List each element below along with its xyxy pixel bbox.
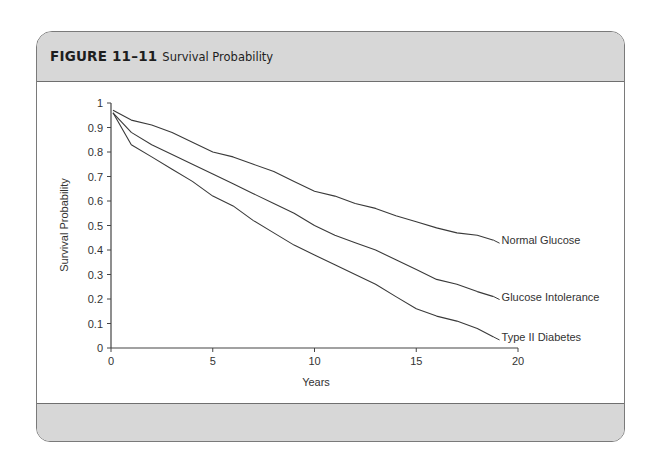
x-tick-label: 20: [512, 355, 524, 367]
y-tick-label: 0.4: [88, 244, 103, 256]
y-tick-label: 0: [97, 342, 103, 354]
y-tick-label: 0.1: [88, 318, 103, 330]
label-leader: [494, 297, 500, 300]
series-label-glucose-intolerance: Glucose Intolerance: [502, 291, 600, 303]
label-leader: [494, 337, 500, 340]
y-tick-label: 0.6: [88, 195, 103, 207]
y-axis-title: Survival Probability: [58, 178, 70, 272]
y-tick-label: 1: [97, 97, 103, 109]
series-labels: Normal GlucoseGlucose IntoleranceType II…: [494, 234, 600, 343]
x-tick-label: 10: [308, 355, 320, 367]
series-label-type-ii-diabetes: Type II Diabetes: [502, 331, 582, 343]
y-tick-label: 0.5: [88, 220, 103, 232]
series-line-glucose-intolerance: [113, 113, 494, 297]
y-tick-label: 0.7: [88, 171, 103, 183]
survival-chart: 00.10.20.30.40.50.60.70.80.9105101520 No…: [0, 0, 660, 469]
series-line-normal-glucose: [113, 110, 494, 240]
y-tick-label: 0.9: [88, 122, 103, 134]
y-tick-label: 0.8: [88, 146, 103, 158]
series-label-normal-glucose: Normal Glucose: [502, 234, 581, 246]
x-tick-label: 5: [210, 355, 216, 367]
x-axis-title: Years: [302, 376, 330, 388]
y-tick-label: 0.2: [88, 293, 103, 305]
y-tick-label: 0.3: [88, 269, 103, 281]
label-leader: [494, 240, 500, 243]
chart-axes: 00.10.20.30.40.50.60.70.80.9105101520: [88, 97, 524, 367]
chart-lines: [113, 110, 494, 337]
series-line-type-ii-diabetes: [113, 113, 494, 337]
x-tick-label: 0: [108, 355, 114, 367]
x-tick-label: 15: [410, 355, 422, 367]
